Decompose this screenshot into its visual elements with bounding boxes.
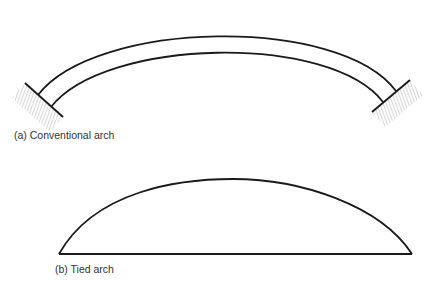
inner-arch-curve bbox=[51, 53, 383, 107]
outer-arch-curve bbox=[38, 36, 396, 95]
tied-arch bbox=[59, 179, 412, 254]
panel-a-caption: (a) Conventional arch bbox=[14, 129, 114, 141]
arch-diagram bbox=[0, 0, 434, 282]
left-support-hatch bbox=[12, 83, 63, 132]
panel-b-caption: (b) Tied arch bbox=[55, 263, 114, 275]
arch-curve bbox=[59, 179, 412, 254]
conventional-arch bbox=[12, 36, 423, 132]
right-support-hatch bbox=[372, 80, 423, 127]
